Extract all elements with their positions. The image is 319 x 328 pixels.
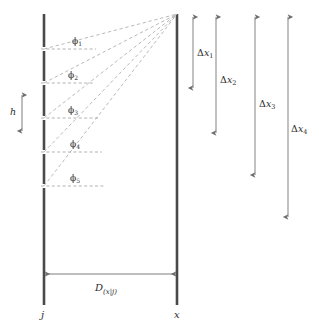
distance-symbol: D xyxy=(95,282,103,293)
phi-subscript: 5 xyxy=(76,177,80,184)
dx-subscript: 4 xyxy=(303,128,307,136)
ray-phi2 xyxy=(44,14,177,83)
phi-subscript: 3 xyxy=(74,109,78,116)
ray-phi1 xyxy=(44,14,177,49)
distance-label: D(x|j) xyxy=(95,283,117,296)
angle-label-phi1: ϕ1 xyxy=(72,37,82,47)
angle-label-phi4: ϕ4 xyxy=(70,140,80,150)
dx-subscript: 3 xyxy=(271,103,275,111)
diagram-canvas xyxy=(0,0,319,328)
delta-symbol: Δ xyxy=(220,74,227,85)
figure-diagram: ϕ1 ϕ2 ϕ3 ϕ4 ϕ5 Δx1 Δx2 Δx3 Δx4 h D(x|j) … xyxy=(0,0,319,328)
angle-label-phi5: ϕ5 xyxy=(70,174,80,184)
segment-height-label: h xyxy=(10,107,16,117)
delta-symbol: Δ xyxy=(259,98,266,109)
offset-label-dx3: Δx3 xyxy=(259,99,275,111)
ray-lines xyxy=(44,14,177,186)
distance-subscript: (x|j) xyxy=(103,288,117,296)
dx-subscript: 2 xyxy=(232,79,236,87)
phi-subscript: 4 xyxy=(76,143,80,150)
ray-phi3 xyxy=(44,14,177,118)
dx-subscript: 1 xyxy=(209,52,213,60)
angle-label-phi2: ϕ2 xyxy=(68,71,78,81)
angle-label-phi3: ϕ3 xyxy=(68,106,78,116)
offset-label-dx1: Δx1 xyxy=(197,48,213,60)
offset-label-dx4: Δx4 xyxy=(291,124,307,136)
axis-label-j: j xyxy=(41,310,44,320)
phi-subscript: 2 xyxy=(74,74,78,81)
axis-label-x: x xyxy=(174,310,180,320)
ray-phi5 xyxy=(44,14,177,186)
delta-symbol: Δ xyxy=(291,123,298,134)
delta-symbol: Δ xyxy=(197,47,204,58)
offset-label-dx2: Δx2 xyxy=(220,75,236,87)
phi-subscript: 1 xyxy=(78,40,82,47)
